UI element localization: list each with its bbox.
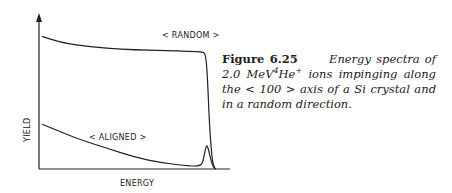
spectra-chart: < RANDOM > < ALIGNED > ENERGY YIELD [0, 0, 240, 193]
y-axis-label: YIELD [23, 118, 32, 143]
aligned-label: < ALIGNED > [89, 133, 146, 142]
figure-number: Figure 6.25 [222, 52, 298, 66]
x-axis-label: ENERGY [120, 179, 154, 188]
aligned-spectrum-curve [42, 124, 216, 169]
figure-caption: Figure 6.25 Energy spectra of 2.0 MeV4He… [222, 52, 436, 112]
y-axis-arrow [36, 13, 42, 22]
random-spectrum-curve [42, 36, 215, 169]
random-label: < RANDOM > [162, 31, 220, 40]
